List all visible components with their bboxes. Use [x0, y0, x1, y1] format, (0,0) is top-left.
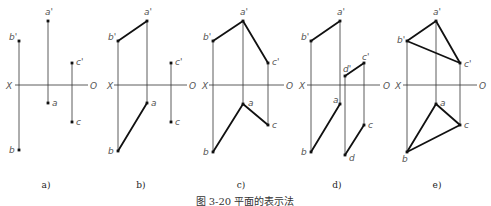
point-label-b-prime: b'	[301, 32, 309, 42]
axis-label-o: O	[479, 81, 486, 91]
point-label-c: c	[175, 117, 180, 127]
panel-e: XOa'b'c'abce)	[394, 7, 486, 190]
point-c-prime	[267, 62, 270, 65]
point-a-prime	[47, 20, 50, 23]
point-label-a: a	[440, 98, 446, 108]
point-label-c: c	[368, 120, 373, 130]
point-b-prime	[18, 40, 21, 43]
point-a	[242, 103, 245, 106]
axis-label-o: O	[90, 81, 97, 91]
point-b	[406, 151, 409, 154]
point-a-prime	[146, 20, 149, 23]
point-c	[170, 121, 173, 124]
point-a	[47, 102, 50, 105]
edge-a-b	[118, 103, 147, 151]
figure-caption: 图 3-20 平面的表示法	[196, 195, 295, 206]
axis-label-o: O	[286, 81, 293, 91]
point-b	[117, 150, 120, 153]
edge-a-prime-b-prime	[407, 21, 436, 41]
edge-a-b	[311, 104, 340, 152]
point-label-c: c	[272, 120, 277, 130]
point-b-prime	[212, 40, 215, 43]
point-label-b: b	[108, 146, 114, 156]
axis-label-x: X	[394, 81, 402, 91]
panel-label-d: d)	[332, 180, 341, 190]
point-c-prime	[170, 62, 173, 65]
point-label-a-prime: a'	[144, 7, 152, 17]
point-c	[459, 124, 462, 127]
edge-b-prime-c-prime	[407, 41, 460, 63]
point-label-c-prime: c'	[362, 52, 369, 62]
edge-c-d	[345, 125, 364, 155]
point-c-prime	[363, 62, 366, 65]
point-label-c: c	[76, 117, 81, 127]
point-d	[344, 154, 347, 157]
point-label-a-prime: a'	[433, 7, 441, 17]
axis-label-o: O	[189, 81, 196, 91]
axis-label-o: O	[383, 81, 390, 91]
point-c	[267, 124, 270, 127]
point-label-b-prime: b'	[203, 32, 211, 42]
panel-label-b: b)	[136, 180, 145, 190]
point-a	[146, 102, 149, 105]
point-b	[310, 151, 313, 154]
panel-label-e: e)	[433, 180, 442, 190]
point-a-prime	[435, 20, 438, 23]
point-b	[18, 149, 21, 152]
panel-a: XOa'b'c'abca)	[5, 7, 97, 190]
point-label-b: b	[9, 145, 15, 155]
point-label-a: a	[248, 98, 254, 108]
point-a	[435, 103, 438, 106]
edge-a-prime-b-prime	[213, 21, 243, 41]
point-b	[212, 151, 215, 154]
point-label-b-prime: b'	[9, 32, 17, 42]
panel-label-a: a)	[42, 180, 51, 190]
panel-d: XOa'b'c'd'abcdd)	[298, 7, 390, 190]
point-b-prime	[117, 40, 120, 43]
point-label-c: c	[464, 120, 469, 130]
point-label-b: b	[402, 154, 408, 164]
plane-representation-figure: XOa'b'c'abca)XOa'b'c'abcb)XOa'b'c'abcc)X…	[0, 0, 491, 206]
point-c	[71, 121, 74, 124]
point-label-d: d	[349, 153, 355, 163]
edge-a-prime-b-prime	[118, 21, 147, 41]
axis-label-x: X	[106, 81, 114, 91]
panels-group: XOa'b'c'abca)XOa'b'c'abcb)XOa'b'c'abcc)X…	[5, 7, 486, 190]
edge-a-prime-c-prime	[243, 21, 268, 63]
edge-a-prime-c-prime	[436, 21, 460, 63]
axis-label-x: X	[298, 81, 306, 91]
edge-a-c	[243, 104, 268, 125]
point-c-prime	[459, 62, 462, 65]
panel-c: XOa'b'c'abcc)	[201, 7, 293, 190]
point-label-c-prime: c'	[464, 59, 471, 69]
point-label-c-prime: c'	[175, 57, 182, 67]
panel-label-c: c)	[237, 180, 246, 190]
point-label-a: a	[52, 98, 58, 108]
point-c	[363, 124, 366, 127]
panel-b: XOa'b'c'abcb)	[106, 7, 196, 190]
axis-label-x: X	[201, 81, 209, 91]
axis-label-x: X	[5, 81, 13, 91]
point-label-a: a	[333, 95, 339, 105]
point-b-prime	[310, 40, 313, 43]
point-label-b-prime: b'	[397, 35, 405, 45]
point-label-b-prime: b'	[108, 32, 116, 42]
point-a	[339, 103, 342, 106]
point-b-prime	[406, 40, 409, 43]
edge-a-prime-b-prime	[311, 21, 340, 41]
point-label-c-prime: c'	[272, 57, 279, 67]
point-d-prime	[344, 75, 347, 78]
point-label-a: a	[151, 98, 157, 108]
point-label-b: b	[301, 147, 307, 157]
point-c-prime	[71, 62, 74, 65]
point-a-prime	[242, 20, 245, 23]
point-label-c-prime: c'	[76, 57, 83, 67]
point-label-d-prime: d'	[343, 64, 351, 74]
point-label-b: b	[203, 147, 209, 157]
point-label-a-prime: a'	[337, 7, 345, 17]
edge-a-b	[213, 104, 243, 152]
point-label-a-prime: a'	[45, 7, 53, 17]
point-a-prime	[339, 20, 342, 23]
point-label-a-prime: a'	[240, 7, 248, 17]
